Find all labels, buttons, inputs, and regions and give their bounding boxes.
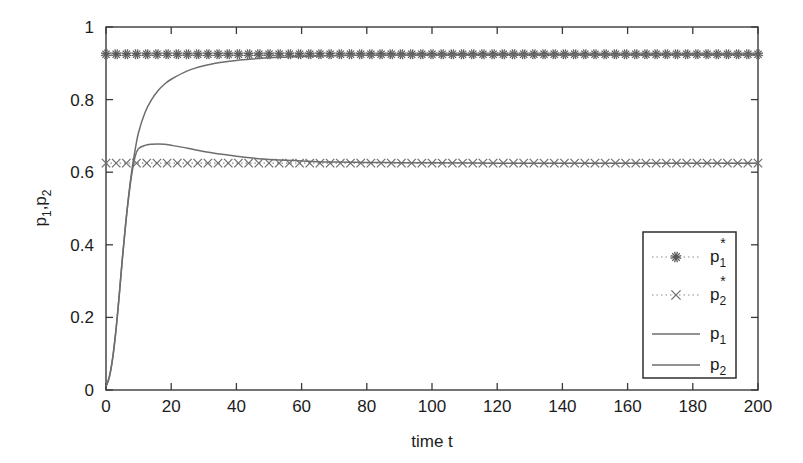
legend-label-sub: 2 (719, 294, 726, 308)
svg-text:p1,p2: p1,p2 (31, 189, 54, 226)
legend-label-base: p (710, 247, 719, 266)
legend-label-base: p (710, 355, 719, 374)
y-tick-label-0.4: 0.4 (70, 236, 94, 255)
plot-area: 020406080100120140160180200 00.20.40.60.… (0, 0, 803, 463)
x-marker (112, 159, 120, 167)
legend-label-superscript: * (720, 235, 726, 251)
y-axis-tick-labels: 00.20.40.60.81 (70, 18, 94, 400)
x-marker (306, 159, 314, 167)
star-marker (244, 49, 254, 59)
y-tick-label-0.8: 0.8 (70, 91, 94, 110)
y-tick-label-1: 1 (85, 18, 94, 37)
equilibrium-reference-lines (106, 54, 758, 163)
x-tick-label-200: 200 (744, 397, 772, 416)
x-tick-label-60: 60 (292, 397, 311, 416)
x-marker (346, 159, 354, 167)
star-marker (223, 49, 233, 59)
y-axis-title-p2-sub: 2 (40, 189, 54, 196)
x-tick-label-20: 20 (162, 397, 181, 416)
y-axis-title-p2-base: p (31, 196, 50, 205)
x-tick-label-0: 0 (101, 397, 110, 416)
x-axis-title: time t (411, 432, 453, 451)
legend-label-superscript: * (720, 273, 726, 289)
x-marker (224, 159, 232, 167)
legend-label-sub: 1 (719, 333, 726, 347)
x-marker (143, 159, 151, 167)
x-marker (183, 159, 191, 167)
x-axis-tick-labels: 020406080100120140160180200 (101, 397, 772, 416)
legend-label-base: p (710, 285, 719, 304)
x-marker (153, 159, 161, 167)
x-tick-label-120: 120 (483, 397, 511, 416)
y-axis-title-p1-base: p (31, 217, 50, 226)
x-tick-label-100: 100 (418, 397, 446, 416)
x-tick-label-80: 80 (357, 397, 376, 416)
star-marker (183, 49, 193, 59)
legend-label-sub: 2 (719, 364, 726, 378)
star-marker (376, 49, 386, 59)
star-marker (162, 49, 172, 59)
x-tick-label-160: 160 (613, 397, 641, 416)
star-marker (203, 49, 213, 59)
y-tick-label-0.6: 0.6 (70, 163, 94, 182)
legend[interactable]: p1*p2*p1p2 (643, 232, 736, 378)
legend-label-sub: 1 (719, 256, 726, 270)
y-tick-label-0: 0 (85, 381, 94, 400)
legend-label-base: p (710, 324, 719, 343)
star-marker (356, 49, 366, 59)
figure-canvas: 020406080100120140160180200 00.20.40.60.… (0, 0, 803, 463)
x-tick-label-180: 180 (679, 397, 707, 416)
y-tick-label-0.2: 0.2 (70, 308, 94, 327)
y-axis-title: p1,p2 (31, 189, 54, 226)
x-marker (336, 159, 344, 167)
x-tick-label-140: 140 (548, 397, 576, 416)
x-tick-label-40: 40 (227, 397, 246, 416)
